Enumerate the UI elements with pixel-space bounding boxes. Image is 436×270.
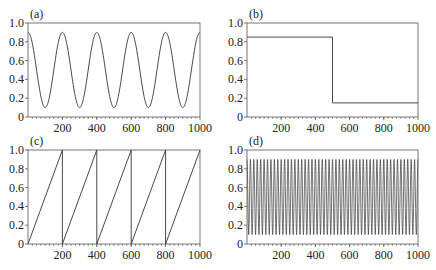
figure: 00.20.40.60.81.02004006008001000(a) 00.2… bbox=[0, 0, 436, 270]
data-line bbox=[28, 32, 200, 107]
y-tick-label: 1.0 bbox=[228, 143, 243, 157]
panel-a: 00.20.40.60.81.02004006008001000(a) bbox=[9, 7, 212, 135]
x-tick-label: 400 bbox=[306, 248, 324, 262]
y-tick-label: 0.2 bbox=[9, 218, 24, 232]
y-tick-label: 1.0 bbox=[228, 16, 243, 30]
x-tick-label: 200 bbox=[272, 248, 290, 262]
x-tick-label: 600 bbox=[122, 121, 140, 135]
x-tick-label: 600 bbox=[341, 248, 359, 262]
y-tick-label: 0.8 bbox=[228, 162, 243, 176]
y-tick-label: 0.8 bbox=[9, 162, 24, 176]
y-tick-label: 0.4 bbox=[9, 72, 24, 86]
x-tick-label: 200 bbox=[53, 121, 71, 135]
x-tick-label: 400 bbox=[88, 248, 106, 262]
y-tick-label: 1.0 bbox=[9, 16, 24, 30]
y-tick-label: 0.6 bbox=[228, 181, 243, 195]
panel-label: (b) bbox=[249, 7, 263, 21]
x-tick-label: 1000 bbox=[406, 248, 430, 262]
x-tick-label: 200 bbox=[272, 121, 290, 135]
y-tick-label: 0.6 bbox=[228, 54, 243, 68]
x-tick-label: 800 bbox=[375, 248, 393, 262]
data-line bbox=[247, 159, 418, 234]
panel-d: 00.20.40.60.81.02004006008001000(d) bbox=[228, 134, 430, 262]
y-tick-label: 1.0 bbox=[9, 143, 24, 157]
panel-c: 00.20.40.60.81.02004006008001000(c) bbox=[9, 134, 212, 262]
x-tick-label: 1000 bbox=[406, 121, 430, 135]
y-tick-label: 0.4 bbox=[228, 199, 243, 213]
x-tick-label: 1000 bbox=[188, 121, 212, 135]
x-tick-label: 800 bbox=[375, 121, 393, 135]
panel-label: (d) bbox=[249, 134, 263, 148]
x-tick-label: 1000 bbox=[188, 248, 212, 262]
x-tick-label: 400 bbox=[306, 121, 324, 135]
y-tick-label: 0.6 bbox=[9, 54, 24, 68]
y-tick-label: 0.4 bbox=[228, 72, 243, 86]
y-tick-label: 0.2 bbox=[9, 91, 24, 105]
x-tick-label: 800 bbox=[157, 248, 175, 262]
x-tick-label: 800 bbox=[157, 121, 175, 135]
y-tick-label: 0.2 bbox=[228, 218, 243, 232]
y-tick-label: 0.2 bbox=[228, 91, 243, 105]
x-tick-label: 400 bbox=[88, 121, 106, 135]
y-tick-label: 0 bbox=[237, 237, 243, 251]
y-tick-label: 0 bbox=[18, 237, 24, 251]
data-line bbox=[28, 150, 200, 244]
x-tick-label: 600 bbox=[341, 121, 359, 135]
panel-b: 00.20.40.60.81.02004006008001000(b) bbox=[228, 7, 430, 135]
panel-label: (a) bbox=[30, 7, 43, 21]
y-tick-label: 0 bbox=[18, 110, 24, 124]
x-tick-label: 200 bbox=[53, 248, 71, 262]
y-tick-label: 0.4 bbox=[9, 199, 24, 213]
y-tick-label: 0.6 bbox=[9, 181, 24, 195]
panel-label: (c) bbox=[30, 134, 43, 148]
y-tick-label: 0.8 bbox=[9, 35, 24, 49]
y-tick-label: 0.8 bbox=[228, 35, 243, 49]
y-tick-label: 0 bbox=[237, 110, 243, 124]
data-line bbox=[247, 37, 418, 103]
x-tick-label: 600 bbox=[122, 248, 140, 262]
